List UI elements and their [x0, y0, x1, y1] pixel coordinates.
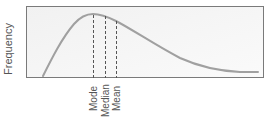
- mode-label: Mode: [88, 86, 99, 111]
- chart-plot-area: [0, 0, 269, 117]
- mean-label: Mean: [111, 86, 122, 111]
- median-label: Median: [100, 84, 111, 117]
